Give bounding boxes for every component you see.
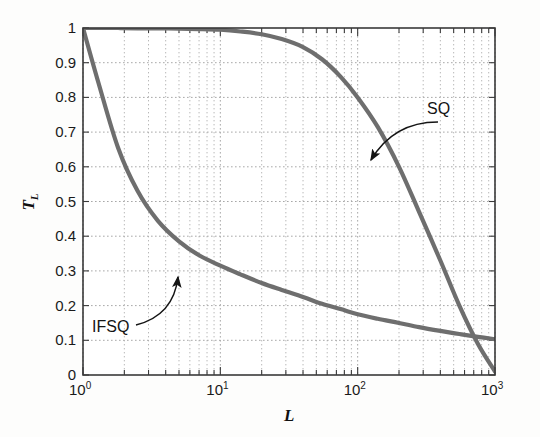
x-tick-label: 102	[344, 380, 366, 398]
x-tick-label: 100	[69, 380, 91, 398]
y-tick-label: 0.2	[34, 297, 76, 314]
plot-canvas	[0, 0, 540, 437]
y-axis-title-wrapper: TL	[10, 182, 50, 222]
curve-label-sq: SQ	[427, 100, 450, 118]
y-tick-label: 0.3	[34, 262, 76, 279]
y-tick-label: 0.7	[34, 123, 76, 140]
y-axis-title-base: T	[19, 200, 38, 210]
y-axis-title-subscript: L	[29, 193, 41, 200]
chart-figure: 00.10.20.30.40.50.60.70.80.91 1001011021…	[0, 0, 540, 437]
x-axis-title: L	[284, 406, 294, 426]
y-tick-label: 0.6	[34, 158, 76, 175]
y-tick-label: 0.4	[34, 227, 76, 244]
x-tick-label: 103	[481, 380, 503, 398]
x-tick-label: 101	[206, 380, 228, 398]
curve-label-ifsq: IFSQ	[92, 318, 129, 336]
y-tick-label: 0.1	[34, 331, 76, 348]
y-tick-label: 0.9	[34, 54, 76, 71]
y-tick-label: 0.8	[34, 88, 76, 105]
y-tick-label: 1	[34, 19, 76, 36]
y-axis-title: TL	[19, 193, 40, 210]
